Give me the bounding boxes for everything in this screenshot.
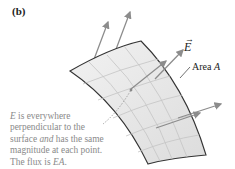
area-label: Area A (192, 61, 220, 72)
caption-line-5-post: . (64, 157, 66, 167)
area-label-var: A (214, 61, 220, 72)
caption-line-5: The flux is EA. (10, 157, 145, 168)
caption-line-3-post: has the same (53, 134, 103, 144)
caption-line-3-pre: surface (10, 134, 39, 144)
caption-line-4: magnitude at each point. (10, 145, 145, 156)
flux-diagram: (b) → E Area A E is everywhere perpendic… (0, 0, 235, 169)
panel-label: (b) (12, 5, 25, 17)
caption-line-5-em: EA (53, 157, 64, 167)
caption-line-5-pre: The flux is (10, 157, 53, 167)
area-label-prefix: Area (192, 61, 214, 72)
caption-line-3-em: and (39, 134, 53, 144)
caption-line-2: perpendicular to the (10, 122, 145, 133)
vector-arrow-accent: → (185, 34, 194, 44)
area-leader (180, 67, 190, 78)
caption-line-3: surface and has the same (10, 134, 145, 145)
caption-line-1-text: is everywhere (16, 111, 71, 121)
caption-line-1: E is everywhere (10, 111, 145, 122)
vector-e-label: → E (184, 40, 191, 55)
caption: E is everywhere perpendicular to the sur… (10, 111, 145, 168)
